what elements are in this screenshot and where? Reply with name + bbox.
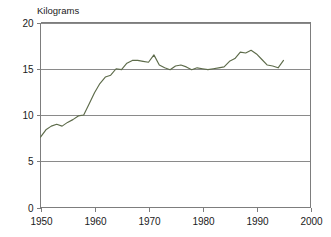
y-tick-label-0: 0 bbox=[28, 203, 34, 214]
x-tick-label-1990: 1990 bbox=[246, 216, 269, 227]
y-axis-tick-labels: 05101520 bbox=[22, 18, 34, 214]
grid-lines bbox=[41, 24, 311, 162]
y-axis-ticks bbox=[37, 24, 41, 209]
x-tick-label-2000: 2000 bbox=[300, 216, 323, 227]
x-tick-label-1950: 1950 bbox=[30, 216, 53, 227]
x-tick-label-1980: 1980 bbox=[192, 216, 215, 227]
chart-container: Kilograms 05101520 195019601970198019902… bbox=[0, 0, 331, 237]
line-chart: Kilograms 05101520 195019601970198019902… bbox=[0, 0, 331, 237]
x-tick-label-1960: 1960 bbox=[84, 216, 107, 227]
x-tick-label-1970: 1970 bbox=[138, 216, 161, 227]
y-tick-label-15: 15 bbox=[22, 64, 34, 75]
y-tick-label-10: 10 bbox=[22, 110, 34, 121]
y-tick-label-5: 5 bbox=[28, 156, 34, 167]
y-tick-label-20: 20 bbox=[22, 18, 34, 29]
x-axis-tick-labels: 195019601970198019902000 bbox=[30, 216, 323, 227]
data-series-line bbox=[41, 50, 284, 137]
x-axis-ticks bbox=[42, 208, 312, 212]
y-axis-title: Kilograms bbox=[37, 5, 79, 16]
